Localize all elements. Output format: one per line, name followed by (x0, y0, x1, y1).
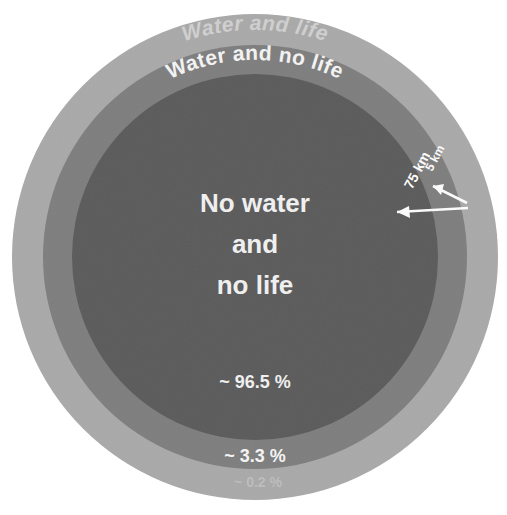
core-label-line-2: and (232, 229, 278, 259)
core-label-line-3: no life (217, 270, 294, 300)
diagram-canvas: Water and life Water and no life No wate… (0, 0, 507, 515)
core-percent-label: ~ 96.5 % (219, 372, 291, 392)
middle-percent-label: ~ 3.3 % (224, 446, 286, 466)
outer-percent-label: ~ 0.2 % (234, 474, 282, 490)
concentric-rings-diagram: Water and life Water and no life No wate… (0, 0, 507, 515)
core-label-line-1: No water (200, 188, 310, 218)
